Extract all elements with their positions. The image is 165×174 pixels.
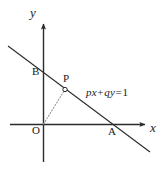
point-label-a: A [108,126,116,137]
line-px-qy-1 [8,46,150,152]
point-label-o: O [32,125,40,136]
segment-op-dotted [44,90,66,125]
point-label-b: B [32,66,39,77]
y-axis-label: y [30,6,36,19]
geometry-figure: y x O B P A px+qy=1 [0,0,165,174]
point-label-p: P [63,73,69,84]
x-axis-label: x [150,121,156,134]
point-p-marker [63,87,67,91]
line-equation-label: px+qy=1 [86,87,128,98]
eq-rhs-value: 1 [122,86,128,98]
figure-canvas [0,0,165,174]
